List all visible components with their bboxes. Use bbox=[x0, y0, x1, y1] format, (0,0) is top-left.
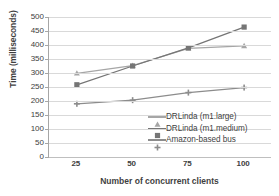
y-axis-tick bbox=[45, 31, 49, 32]
y-axis-tick-label: 100 bbox=[18, 125, 44, 133]
y-axis-tick-label: 250 bbox=[18, 83, 44, 91]
y-axis-tick-label: 50 bbox=[18, 139, 44, 147]
y-axis-tick bbox=[45, 115, 49, 116]
y-axis-tick bbox=[45, 101, 49, 102]
y-axis-tick-label: 0 bbox=[18, 153, 44, 161]
gridline bbox=[49, 87, 271, 88]
y-axis-tick bbox=[45, 45, 49, 46]
x-axis-tick-label: 50 bbox=[127, 159, 136, 168]
gridline bbox=[49, 59, 271, 60]
legend-item-1[interactable]: DRLinda (m1.large) bbox=[148, 111, 276, 123]
gridline bbox=[49, 73, 271, 74]
chart-container: Time (milliseconds) 50045040035030025020… bbox=[0, 0, 279, 196]
y-axis-tick bbox=[45, 17, 49, 18]
gridline bbox=[49, 45, 271, 46]
gridline bbox=[49, 17, 271, 18]
y-axis-title: Time (milliseconds) bbox=[8, 0, 18, 104]
y-axis-tick bbox=[45, 87, 49, 88]
gridline bbox=[49, 31, 271, 32]
y-axis-tick bbox=[45, 129, 49, 130]
x-axis-title: Number of concurrent clients bbox=[48, 176, 271, 186]
legend-item-3[interactable]: Amazon-based bus bbox=[148, 134, 276, 146]
y-axis-tick-label: 500 bbox=[18, 13, 44, 21]
x-axis-tick-label: 75 bbox=[183, 159, 192, 168]
x-axis-tick-label: 25 bbox=[71, 159, 80, 168]
y-axis-tick-label: 350 bbox=[18, 55, 44, 63]
chart-legend: DRLinda (m1.large)DRLinda (m1.medium)Ama… bbox=[148, 111, 276, 146]
y-axis-tick-label: 400 bbox=[18, 41, 44, 49]
series-line bbox=[77, 27, 244, 85]
legend-item-2[interactable]: DRLinda (m1.medium) bbox=[148, 123, 276, 135]
y-axis-tick bbox=[45, 143, 49, 144]
y-axis-tick-labels: 500450400350300250200150100500 bbox=[18, 0, 44, 196]
gridline bbox=[49, 157, 271, 158]
plus-marker-icon bbox=[148, 134, 166, 145]
legend-label: Amazon-based bus bbox=[166, 135, 236, 144]
legend-label: DRLinda (m1.medium) bbox=[166, 124, 247, 133]
y-axis-tick bbox=[45, 157, 49, 158]
data-point bbox=[185, 90, 191, 96]
y-axis-tick-label: 450 bbox=[18, 27, 44, 35]
y-axis-tick bbox=[45, 59, 49, 60]
x-axis-tick-label: 100 bbox=[236, 159, 249, 168]
y-axis-tick-label: 200 bbox=[18, 97, 44, 105]
data-point bbox=[130, 63, 135, 68]
square-marker-icon bbox=[148, 123, 166, 134]
y-axis-tick-label: 150 bbox=[18, 111, 44, 119]
y-axis-tick bbox=[45, 73, 49, 74]
y-axis-tick-label: 300 bbox=[18, 69, 44, 77]
series-2 bbox=[74, 24, 246, 87]
triangle-marker-icon bbox=[148, 111, 166, 122]
legend-label: DRLinda (m1.large) bbox=[166, 112, 237, 121]
data-point bbox=[242, 24, 247, 29]
gridline bbox=[49, 101, 271, 102]
x-axis-tick-labels: 255075100 bbox=[48, 159, 271, 173]
